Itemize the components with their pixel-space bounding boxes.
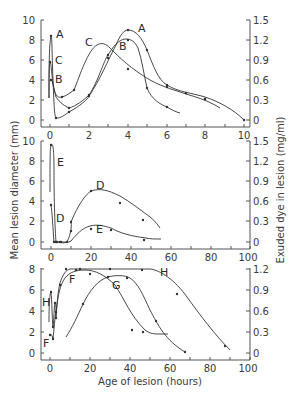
curve-label-a: A <box>138 22 146 35</box>
middle-x-label: 0 <box>48 252 54 263</box>
top-y-right-label: 0 <box>253 115 259 126</box>
bottom-x-label: 20 <box>84 363 97 374</box>
y-axis-right-title: Exuded dye in lesion (mg/ml) <box>275 116 286 263</box>
curve-label-f: F <box>69 273 75 286</box>
middle-y-right-label: 0.6 <box>253 196 269 207</box>
bottom-x-label: 60 <box>164 363 177 374</box>
top-y-right-label: 0.9 <box>253 55 269 66</box>
middle-x-label: 100 <box>238 252 257 263</box>
top-y-left-label: 0 <box>29 115 35 126</box>
bottom-y-right-label: 1.2 <box>253 264 269 275</box>
curve-c-points <box>49 61 206 100</box>
x-axis-title: Age of lesion (hours) <box>98 376 202 387</box>
curve-h <box>49 269 230 350</box>
curve-label-d: D <box>96 179 104 192</box>
top-x-label: 10 <box>238 130 251 141</box>
top-x-label: 6 <box>164 130 170 141</box>
curve-label-c: C <box>55 54 63 67</box>
middle-y-left-label: 0 <box>29 237 35 248</box>
bottom-y-right-label: 0.3 <box>253 327 269 338</box>
middle-y-right-label: 1.5 <box>253 136 269 147</box>
top-x-label: 8 <box>202 130 208 141</box>
curve-a-points <box>50 29 245 121</box>
curve-f-points <box>49 269 144 340</box>
top-y-right-ticks <box>246 20 250 120</box>
curve-label-f: F <box>43 337 49 350</box>
middle-y-left-label: 6 <box>29 176 35 187</box>
bottom-x-label: 80 <box>204 363 217 374</box>
bottom-y-left-label: 4 <box>29 306 35 317</box>
bottom-y-left-label: 0 <box>29 348 35 359</box>
bottom-panel: 8 6 4 2 0 1.2 0.9 0.6 0.3 0 0 20 40 60 8… <box>29 264 269 374</box>
curve-label-h: H <box>160 266 168 279</box>
curve-label-d: D <box>56 212 64 225</box>
curve-label-e: E <box>57 156 64 169</box>
middle-y-right-ticks <box>246 141 250 242</box>
bottom-y-left-label: 8 <box>29 264 35 275</box>
curve-f <box>50 270 168 339</box>
curve-d <box>51 190 160 243</box>
bottom-y-right-label: 0.9 <box>253 285 269 296</box>
middle-y-left-label: 10 <box>22 136 35 147</box>
bottom-y-left-label: 6 <box>29 285 35 296</box>
top-x-label: 4 <box>125 130 131 141</box>
curve-g-points <box>82 276 186 353</box>
top-y-left-label: 4 <box>29 75 35 86</box>
middle-y-right-label: 0.9 <box>253 176 269 187</box>
curve-b <box>51 39 180 113</box>
curve-e <box>50 144 161 242</box>
bottom-x-label: 40 <box>124 363 137 374</box>
middle-x-label: 20 <box>85 252 98 263</box>
y-axis-left-title: Mean lesion diameter (mm) <box>9 121 20 260</box>
curve-c <box>49 44 220 108</box>
curve-b-points <box>50 39 168 109</box>
top-y-left-label: 2 <box>29 95 35 106</box>
top-y-left-label: 6 <box>29 55 35 66</box>
bottom-x-label: 0 <box>47 363 53 374</box>
middle-x-label: 60 <box>165 252 178 263</box>
top-y-right-label: 1.5 <box>253 15 269 26</box>
bottom-x-label: 100 <box>238 363 257 374</box>
middle-x-label: 40 <box>125 252 138 263</box>
curve-label-e: E <box>96 223 103 236</box>
middle-panel-frame <box>41 141 250 249</box>
figure: 10 8 6 4 2 0 1.5 1.2 0.9 0.6 0.3 0 0 2 4… <box>0 0 295 397</box>
middle-x-label: 80 <box>205 252 218 263</box>
middle-y-left-label: 4 <box>29 196 35 207</box>
top-y-right-label: 0.3 <box>253 95 269 106</box>
top-y-left-label: 10 <box>22 15 35 26</box>
top-panel-frame <box>41 20 250 127</box>
middle-y-right-label: 0.3 <box>253 216 269 227</box>
curve-label-c: C <box>85 36 93 49</box>
curve-label-h: H <box>42 296 50 309</box>
bottom-y-left-label: 2 <box>29 327 35 338</box>
bottom-y-right-label: 0 <box>253 348 259 359</box>
curve-label-b: B <box>55 73 63 86</box>
bottom-y-right-ticks <box>246 269 250 353</box>
middle-y-right-label: 0 <box>253 237 259 248</box>
middle-y-left-label: 8 <box>29 156 35 167</box>
top-y-left-label: 8 <box>29 35 35 46</box>
curve-a <box>49 30 244 120</box>
curve-g <box>66 276 185 352</box>
curve-h-points <box>50 268 226 347</box>
top-x-label: 2 <box>86 130 92 141</box>
curve-label-g: G <box>112 279 121 292</box>
top-y-right-label: 0.6 <box>253 75 269 86</box>
middle-panel: 10 8 6 4 2 0 1.5 1.2 0.9 0.6 0.3 0 0 20 … <box>22 136 269 263</box>
middle-y-left-label: 2 <box>29 216 35 227</box>
curve-label-b: B <box>119 40 127 53</box>
top-y-right-label: 1.2 <box>253 35 269 46</box>
bottom-y-right-label: 0.6 <box>253 306 269 317</box>
middle-y-right-label: 1.2 <box>253 156 269 167</box>
top-panel: 10 8 6 4 2 0 1.5 1.2 0.9 0.6 0.3 0 0 2 4… <box>22 15 269 141</box>
top-x-label: 0 <box>47 130 53 141</box>
curve-label-a: A <box>56 28 64 41</box>
